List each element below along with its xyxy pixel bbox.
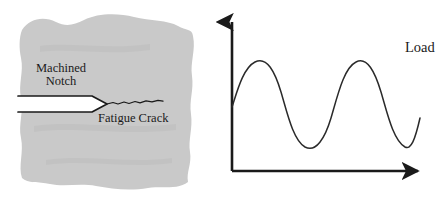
machined-notch-label: Machined Notch (20, 62, 102, 88)
specimen-panel: Machined Notch Fatigue Crack (0, 0, 215, 203)
machined-notch-label-line1: Machined (36, 61, 86, 75)
fatigue-crack-figure: Machined Notch Fatigue Crack Load (0, 0, 447, 203)
machined-notch-slot (18, 96, 107, 112)
machined-notch-label-line2: Notch (20, 75, 102, 88)
specimen-drawing (0, 0, 215, 203)
y-axis-label: Load (405, 40, 435, 55)
plot-drawing (215, 0, 447, 203)
load-time-plot: Load Time (215, 0, 447, 203)
fatigue-crack-label: Fatigue Crack (98, 112, 168, 125)
cyclic-load-curve (232, 61, 420, 149)
